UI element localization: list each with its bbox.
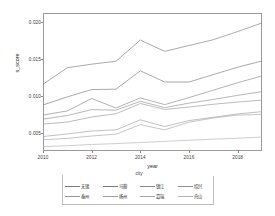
y-axis-tick-label: 0.015: [29, 57, 41, 62]
x-axis-tick-label: 2016: [184, 155, 195, 160]
legend-swatch-line: [140, 196, 155, 197]
legend-item-label: 泰州: [81, 193, 89, 199]
legend-item-label: 无锡: [81, 183, 89, 189]
legend-items: 无锡马鞍镇江绍兴泰州扬州嘉瑞舟山: [64, 181, 214, 201]
series-line: [43, 61, 262, 105]
legend-swatch-line: [65, 186, 80, 187]
x-axis-tick-label: 2018: [232, 155, 243, 160]
legend-item-label: 舟山: [194, 193, 202, 199]
y-axis-label: s_score: [14, 38, 20, 88]
line-chart-figure: 0.0050.0100.0150.020 s_score 20102012201…: [0, 0, 275, 216]
series-line: [43, 76, 262, 115]
legend-item-label: 镇江: [156, 183, 164, 189]
x-axis-tick-container: 20102012201420162018: [0, 153, 275, 163]
legend-swatch-line: [65, 196, 80, 197]
legend-item-label: 嘉瑞: [156, 193, 164, 199]
x-axis-tick-mark: [43, 151, 44, 153]
legend-item[interactable]: 镇江: [139, 181, 177, 191]
plot-lines: [43, 13, 262, 151]
legend-item[interactable]: 舟山: [177, 191, 215, 201]
y-axis-tick-label: 0.020: [29, 19, 41, 24]
legend-item[interactable]: 无锡: [64, 181, 102, 191]
x-axis-tick-mark: [140, 151, 141, 153]
legend-swatch-line: [178, 196, 193, 197]
series-line: [43, 100, 262, 124]
legend-item[interactable]: 绍兴: [177, 181, 215, 191]
x-axis-tick-mark: [92, 151, 93, 153]
x-axis-label: year: [43, 163, 262, 169]
x-axis-tick-mark: [238, 151, 239, 153]
series-line: [43, 137, 262, 147]
legend-swatch-line: [103, 196, 118, 197]
series-line: [43, 112, 262, 137]
legend-item-label: 扬州: [119, 193, 127, 199]
series-line: [43, 23, 262, 84]
legend: city 无锡马鞍镇江绍兴泰州扬州嘉瑞舟山: [62, 175, 214, 205]
legend-item-label: 马鞍: [119, 183, 127, 189]
x-axis-tick-mark: [189, 151, 190, 153]
legend-swatch-line: [140, 186, 155, 187]
legend-swatch-line: [103, 186, 118, 187]
y-axis-tick-label: 0.010: [29, 94, 41, 99]
x-axis-tick-label: 2012: [86, 155, 97, 160]
x-axis-tick-label: 2014: [135, 155, 146, 160]
y-axis-tick-label: 0.005: [29, 131, 41, 136]
legend-item-label: 绍兴: [194, 183, 202, 189]
legend-item[interactable]: 泰州: [64, 191, 102, 201]
legend-item[interactable]: 扬州: [102, 191, 140, 201]
legend-title: city: [63, 171, 215, 176]
legend-item[interactable]: 嘉瑞: [139, 191, 177, 201]
series-line: [43, 115, 262, 140]
y-axis-tick-container: 0.0050.0100.0150.020: [0, 0, 41, 216]
x-axis-tick-label: 2010: [38, 155, 49, 160]
legend-swatch-line: [178, 186, 193, 187]
legend-item[interactable]: 马鞍: [102, 181, 140, 191]
